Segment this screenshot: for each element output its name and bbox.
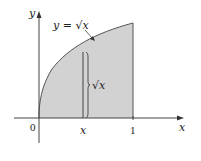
one-tick-label: 1 xyxy=(130,124,136,136)
x-tick-label: x xyxy=(80,124,87,137)
shaded-region xyxy=(39,23,133,118)
strip-height-label: √x xyxy=(92,79,106,92)
y-axis-arrow-icon xyxy=(37,11,42,18)
y-axis-label: y xyxy=(28,7,36,20)
curve-label: y = √x xyxy=(52,19,89,32)
x-axis-arrow-icon xyxy=(177,116,184,121)
x-axis-label: x xyxy=(179,121,186,134)
diagram-canvas: y x 0 x 1 y = √x √x xyxy=(0,0,201,161)
origin-label: 0 xyxy=(30,121,36,133)
